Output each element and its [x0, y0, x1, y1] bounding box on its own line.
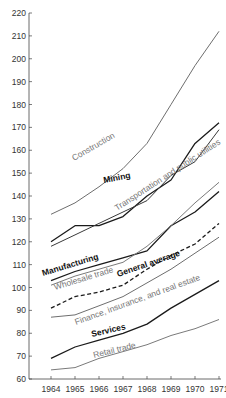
series-line-mining [51, 123, 219, 242]
x-tick-label: 1968 [138, 384, 157, 394]
y-tick-label: 70 [17, 351, 27, 361]
label-services: Services [90, 321, 127, 339]
x-tick-label: 1971 [210, 384, 226, 394]
label-construction: Construction [70, 130, 117, 163]
y-tick-label: 120 [12, 237, 26, 247]
series-line-construction [51, 31, 219, 214]
y-tick-label: 60 [17, 374, 27, 384]
y-tick-label: 80 [17, 328, 27, 338]
x-tick-label: 1965 [66, 384, 85, 394]
y-tick-label: 200 [12, 54, 26, 64]
x-tick-label: 1967 [114, 384, 133, 394]
series-labels: Construction Mining Transportation and p… [41, 130, 222, 360]
y-tick-label: 180 [12, 100, 26, 110]
x-tick-label: 1966 [90, 384, 109, 394]
label-retail: Retail trade [92, 340, 137, 360]
y-tick-label: 90 [17, 305, 27, 315]
y-tick-label: 110 [12, 260, 26, 270]
x-tick-label: 1964 [42, 384, 61, 394]
y-tick-label: 140 [12, 191, 26, 201]
y-tick-label: 150 [12, 168, 26, 178]
y-tick-label: 220 [12, 8, 26, 18]
y-tick-label: 190 [12, 77, 26, 87]
x-tick-label: 1969 [162, 384, 181, 394]
label-general-average: General average [115, 248, 181, 279]
line-chart: 6070809010011012013014015016017018019020… [0, 0, 226, 398]
y-tick-label: 130 [12, 214, 26, 224]
y-tick-label: 210 [12, 31, 26, 41]
series-line-transportation-and-public-utilities [51, 130, 219, 247]
y-tick-label: 160 [12, 145, 26, 155]
y-tick-label: 170 [12, 122, 26, 132]
x-tick-label: 1970 [186, 384, 205, 394]
y-tick-label: 100 [12, 283, 26, 293]
label-mining: Mining [102, 170, 131, 185]
